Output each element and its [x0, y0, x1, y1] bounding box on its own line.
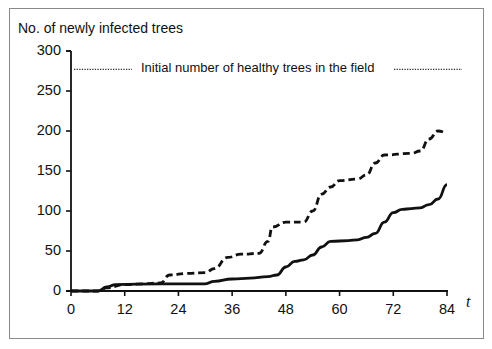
x-axis-variable: t	[466, 293, 470, 311]
x-tick-label: 84	[432, 301, 462, 317]
plot-area	[0, 0, 492, 349]
x-tick-label: 48	[271, 301, 301, 317]
x-tick-label: 36	[217, 301, 247, 317]
y-tick-label: 0	[21, 282, 61, 298]
y-axis-title: No. of newly infected trees	[18, 20, 183, 36]
y-tick-label: 50	[21, 242, 61, 258]
y-tick-label: 150	[21, 162, 61, 178]
y-tick-label: 100	[21, 202, 61, 218]
series-solid-line	[71, 185, 447, 291]
y-tick-label: 250	[21, 82, 61, 98]
x-tick-label: 0	[56, 301, 86, 317]
x-tick-label: 12	[110, 301, 140, 317]
x-tick-label: 24	[163, 301, 193, 317]
y-tick-label: 200	[21, 122, 61, 138]
x-tick-label: 60	[325, 301, 355, 317]
x-tick-label: 72	[378, 301, 408, 317]
reference-line-label: Initial number of healthy trees in the f…	[141, 60, 374, 75]
axes	[66, 51, 448, 296]
y-tick-label: 300	[21, 42, 61, 58]
series-dashed-line	[71, 131, 447, 291]
